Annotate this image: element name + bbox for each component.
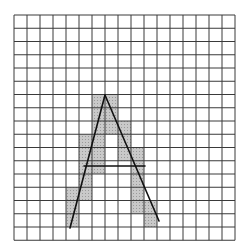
shaded-cell	[131, 201, 144, 214]
shaded-cell	[79, 134, 92, 147]
grid-canvas	[0, 0, 250, 252]
shaded-cell	[105, 121, 118, 134]
shaded-cell	[92, 148, 105, 161]
shaded-cell	[92, 121, 105, 134]
shaded-cell	[92, 161, 105, 174]
rasterized-letter-a-figure	[0, 0, 250, 252]
shaded-cell	[118, 121, 131, 134]
shaded-cell	[131, 187, 144, 200]
shaded-cell	[144, 214, 157, 227]
